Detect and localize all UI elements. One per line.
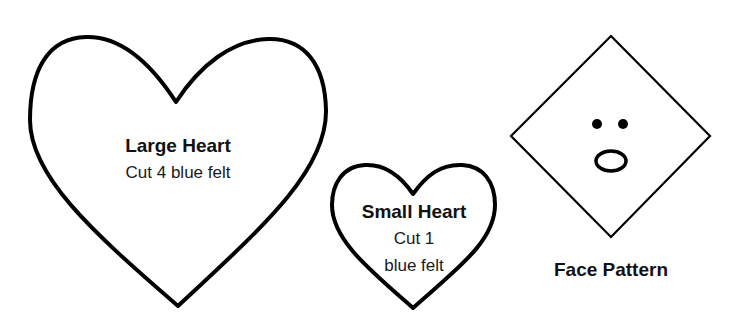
face-diamond-outline (511, 36, 710, 237)
large-heart-instruction: Cut 4 blue felt (78, 163, 278, 183)
mouth-icon (596, 151, 626, 171)
large-heart-title: Large Heart (78, 135, 278, 157)
left-eye-icon (592, 119, 602, 129)
small-heart-instruction-line2: blue felt (334, 256, 494, 276)
small-heart-title: Small Heart (334, 201, 494, 223)
face-pattern-title: Face Pattern (530, 259, 692, 281)
right-eye-icon (618, 119, 628, 129)
small-heart-instruction-line1: Cut 1 (334, 229, 494, 249)
